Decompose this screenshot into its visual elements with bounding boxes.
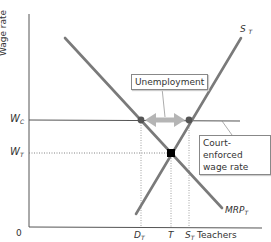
origin-label: 0 bbox=[16, 228, 22, 238]
mrp-demand-curve bbox=[65, 38, 222, 208]
supply-curve-label: S T bbox=[240, 24, 252, 35]
court-wage-line bbox=[29, 120, 240, 121]
mrp-curve-label: MRPT bbox=[225, 205, 248, 216]
wc-label: WC bbox=[10, 113, 24, 125]
unemployment-callout: Unemployment bbox=[131, 74, 208, 90]
x-axis bbox=[29, 227, 262, 228]
wt-label: WT bbox=[10, 146, 24, 158]
x-axis-label: Teachers bbox=[197, 230, 237, 240]
demand-intersection-point bbox=[138, 117, 145, 124]
t-label: T bbox=[168, 230, 174, 240]
y-axis-label: Wage rate bbox=[2, 4, 14, 64]
dt-label: DT bbox=[134, 230, 145, 241]
court-connector bbox=[222, 121, 232, 135]
equilibrium-point bbox=[167, 149, 175, 157]
court-wage-callout: Court-enforced wage rate bbox=[199, 135, 271, 175]
st-label: ST bbox=[185, 230, 194, 241]
supply-intersection-point bbox=[186, 117, 193, 124]
unemployment-connector bbox=[162, 88, 165, 117]
